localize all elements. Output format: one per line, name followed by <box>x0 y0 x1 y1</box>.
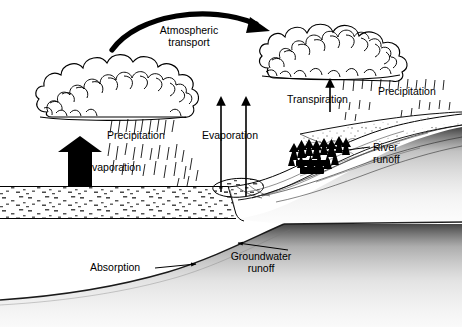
cloud-right <box>260 24 407 81</box>
label-evaporation-center: Evaporation <box>202 130 258 142</box>
ocean-water-body <box>0 186 238 219</box>
ground-substrate <box>0 222 462 327</box>
label-atmospheric-transport-line1: Atmospheric <box>160 24 218 36</box>
label-atmospheric-transport-line2: transport <box>168 36 209 48</box>
label-groundwater-runoff-line1: Groundwater <box>231 250 292 262</box>
label-transpiration: Transpiration <box>287 94 348 106</box>
label-river-runoff-line2: runoff <box>373 153 400 165</box>
label-atmospheric-transport: Atmospheric transport <box>143 24 235 48</box>
water-cycle-diagram: Atmospheric transport Precipitation Evap… <box>0 0 462 327</box>
label-absorption: Absorption <box>90 262 140 274</box>
label-evaporation-left: Evaporation <box>85 162 141 174</box>
label-precipitation-left: Precipitation <box>107 130 165 142</box>
label-river-runoff: River runoff <box>373 141 425 165</box>
hillside-terrain <box>238 112 462 224</box>
label-precipitation-right: Precipitation <box>378 86 436 98</box>
label-groundwater-runoff-line2: runoff <box>248 262 275 274</box>
cloud-left <box>36 55 199 121</box>
label-groundwater-runoff: Groundwater runoff <box>224 250 298 274</box>
label-river-runoff-line1: River <box>373 141 398 153</box>
